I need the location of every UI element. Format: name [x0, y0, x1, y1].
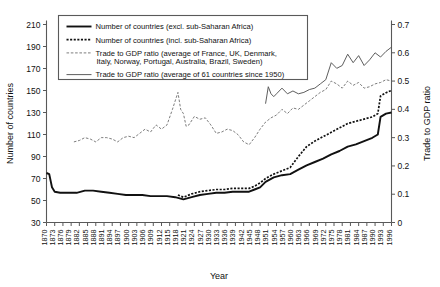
left-axis-tick-label: 190 [26, 42, 40, 52]
left-axis-tick-label: 210 [26, 20, 40, 30]
right-axis-tick-label: 0.3 [398, 133, 410, 143]
right-axis-tick-label: 0.5 [398, 76, 410, 86]
left-axis-tick-label: 70 [31, 174, 41, 184]
series-line-0 [47, 113, 392, 200]
legend-label-1: Number of countries (incl. sub-Saharan A… [96, 36, 252, 45]
left-axis-tick-label: 150 [26, 86, 40, 96]
left-axis-tick-label: 170 [26, 64, 40, 74]
legend-label-0: Number of countries (excl. sub-Saharan A… [96, 22, 254, 31]
series-line-2 [74, 80, 392, 145]
left-axis-tick-label: 110 [27, 130, 41, 140]
right-axis-tick-label: 0.1 [398, 189, 410, 199]
x-axis-tick-label: 1996 [385, 230, 394, 246]
legend-label-3: Italy, Norway, Portugal, Australia, Braz… [97, 57, 263, 66]
right-axis-tick-label: 0.2 [398, 161, 410, 171]
legend-label-4: Trade to GDP ratio (average of 61 countr… [96, 70, 285, 79]
x-axis-title: Year [210, 271, 228, 281]
left-axis-tick-label: 30 [31, 218, 41, 228]
left-axis-tick-label: 90 [31, 152, 41, 162]
line-chart: 3050709011013015017019021000.10.20.30.40… [0, 0, 440, 287]
chart-container: 3050709011013015017019021000.10.20.30.40… [0, 0, 440, 287]
right-axis-title: Trade to GDP ratio [422, 86, 432, 161]
left-axis-title: Number of countries [5, 82, 15, 164]
right-axis-tick-label: 0.6 [398, 48, 410, 58]
left-axis-tick-label: 50 [31, 196, 41, 206]
left-axis-tick-label: 130 [26, 108, 40, 118]
right-axis-tick-label: 0.7 [398, 20, 410, 30]
right-axis-tick-label: 0 [398, 218, 403, 228]
right-axis-tick-label: 0.4 [398, 104, 410, 114]
